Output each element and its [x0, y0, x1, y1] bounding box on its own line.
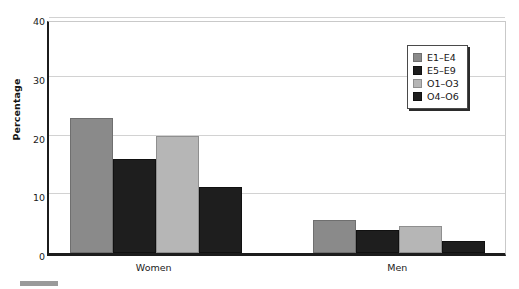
- legend-item: O4–O6: [413, 90, 459, 103]
- bar: [313, 220, 356, 253]
- legend-swatch-icon: [413, 79, 422, 88]
- y-tick-label: 20: [17, 133, 45, 144]
- bar: [70, 118, 113, 253]
- legend-swatch-icon: [413, 66, 422, 75]
- y-tick-label: 40: [17, 16, 45, 27]
- bar-chart: Percentage 010203040 WomenMen E1–E4E5–E9…: [0, 0, 519, 289]
- legend-swatch-icon: [413, 92, 422, 101]
- legend: E1–E4E5–E9O1–O3O4–O6: [407, 45, 468, 109]
- x-tick-label: Women: [136, 262, 172, 273]
- y-tick-label: 0: [17, 251, 45, 262]
- legend-swatch-icon: [413, 53, 422, 62]
- bar: [156, 136, 199, 254]
- bar: [399, 226, 442, 253]
- legend-label: O4–O6: [427, 91, 459, 102]
- legend-item: E5–E9: [413, 64, 459, 77]
- legend-item: O1–O3: [413, 77, 459, 90]
- gridline: [49, 17, 505, 18]
- legend-label: E5–E9: [427, 65, 456, 76]
- page-artifact-mark: [20, 281, 58, 286]
- legend-label: O1–O3: [427, 78, 459, 89]
- legend-item: E1–E4: [413, 51, 459, 64]
- bar: [113, 159, 156, 253]
- x-tick-label: Men: [387, 262, 407, 273]
- legend-label: E1–E4: [427, 52, 456, 63]
- bar: [356, 230, 399, 254]
- bar: [199, 187, 242, 253]
- gridline: [49, 135, 505, 136]
- bar: [442, 241, 485, 253]
- y-tick-label: 10: [17, 192, 45, 203]
- y-tick-label: 30: [17, 74, 45, 85]
